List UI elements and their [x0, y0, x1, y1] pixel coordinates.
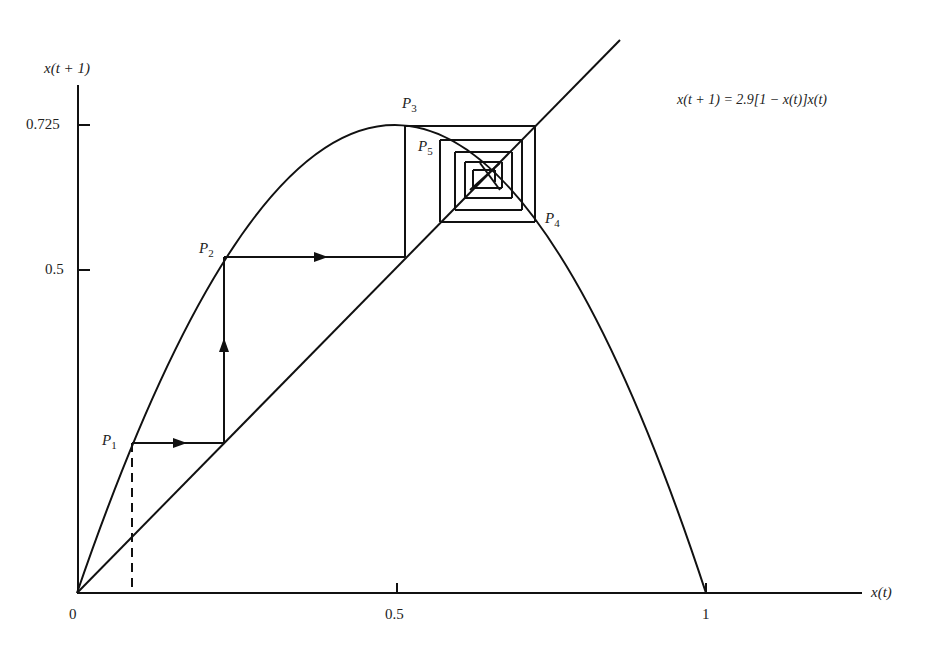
y-tick-label-05: 0.5 — [45, 261, 64, 278]
point-name: P — [199, 240, 208, 256]
point-sub: 5 — [427, 145, 433, 157]
y-tick-label-0725: 0.725 — [26, 116, 60, 133]
x-tick-label-0: 0 — [69, 606, 77, 623]
point-label-p5: P5 — [418, 138, 433, 157]
point-name: P — [402, 95, 411, 111]
diagonal-line — [77, 40, 620, 593]
point-sub: 2 — [208, 247, 214, 259]
point-label-p3: P3 — [402, 95, 417, 114]
x-tick-label-1: 1 — [702, 606, 710, 623]
point-label-p2: P2 — [199, 240, 214, 259]
point-name: P — [418, 138, 427, 154]
point-name: P — [545, 210, 554, 226]
point-label-p1: P1 — [102, 432, 117, 451]
equation-label: x(t + 1) = 2.9[1 − x(t)]x(t) — [677, 92, 827, 108]
arrow-right-icon — [314, 252, 328, 262]
arrow-right-icon — [173, 438, 187, 448]
arrow-up-icon — [219, 338, 229, 352]
point-sub: 4 — [554, 217, 560, 229]
point-name: P — [102, 432, 111, 448]
point-sub: 3 — [411, 102, 417, 114]
point-sub: 1 — [111, 439, 117, 451]
parabola-curve — [77, 125, 706, 593]
point-label-p4: P4 — [545, 210, 560, 229]
x-axis-label: x(t) — [871, 584, 892, 601]
x-tick-label-05: 0.5 — [385, 606, 404, 623]
y-axis-label: x(t + 1) — [44, 60, 90, 77]
